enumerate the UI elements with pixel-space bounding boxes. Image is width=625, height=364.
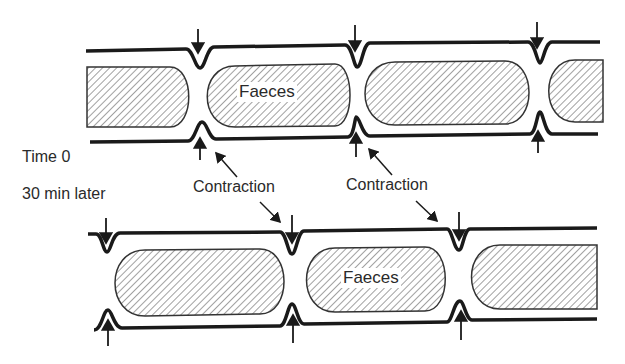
faeces-label: Faeces: [341, 268, 401, 288]
faeces-label: Faeces: [237, 82, 297, 102]
panel-label-later: 30 min later: [22, 185, 106, 203]
segmentation-diagram: [0, 0, 625, 364]
contraction-label: Contraction: [193, 178, 275, 196]
faeces-mass: [472, 245, 598, 309]
pointer-arrow-icon: [216, 153, 237, 177]
faeces-mass: [115, 249, 284, 316]
colon-wall-top: [86, 42, 600, 68]
pointer-arrow-icon: [260, 202, 280, 222]
contraction-label: Contraction: [346, 176, 428, 194]
panel-time0: [86, 22, 603, 160]
faeces-mass: [549, 60, 603, 122]
faeces-mass: [365, 61, 529, 125]
pointer-arrow-icon: [416, 201, 437, 221]
panel-label-time0: Time 0: [22, 148, 70, 166]
faeces-mass: [87, 67, 189, 127]
pointer-arrow-icon: [369, 149, 392, 175]
